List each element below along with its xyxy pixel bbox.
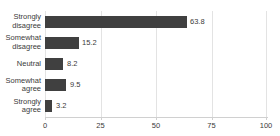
category-label-somewhat-disagree: Somewhat disagree xyxy=(0,32,41,53)
chart-row: Strongly agree 3.2 xyxy=(0,96,280,117)
x-axis-label-25: 25 xyxy=(96,121,104,130)
bar-somewhat-agree[interactable] xyxy=(45,79,66,91)
category-label-strongly-disagree: Strongly disagree xyxy=(0,11,41,32)
x-axis-tick-100 xyxy=(266,117,267,120)
category-label-somewhat-agree: Somewhat agree xyxy=(0,75,41,96)
bar-value-strongly-disagree: 63.8 xyxy=(190,17,205,27)
bar-chart: Strongly disagree 63.8 Somewhat disagree… xyxy=(0,0,280,136)
x-axis-tick-75 xyxy=(212,117,213,120)
bar-strongly-disagree[interactable] xyxy=(45,16,187,28)
x-axis-tick-0 xyxy=(45,117,46,120)
chart-row: Somewhat disagree 15.2 xyxy=(0,32,280,53)
chart-row: Neutral 8.2 xyxy=(0,53,280,74)
bar-somewhat-disagree[interactable] xyxy=(45,37,79,49)
category-label-line2: agree xyxy=(22,106,41,115)
x-axis-tick-25 xyxy=(101,117,102,120)
category-label-line2: disagree xyxy=(12,43,41,52)
bar-value-neutral: 8.2 xyxy=(67,59,77,69)
bar-value-somewhat-agree: 9.5 xyxy=(70,80,80,90)
bar-strongly-agree[interactable] xyxy=(45,100,52,112)
x-axis-tick-50 xyxy=(156,117,157,120)
category-label-neutral: Neutral xyxy=(0,53,41,74)
bar-value-somewhat-disagree: 15.2 xyxy=(82,38,97,48)
category-label-strongly-agree: Strongly agree xyxy=(0,96,41,117)
category-label-line2: disagree xyxy=(12,22,41,31)
x-axis-label-100: 100 xyxy=(260,121,273,130)
x-axis-label-0: 0 xyxy=(43,121,47,130)
bar-neutral[interactable] xyxy=(45,58,63,70)
x-axis-label-75: 75 xyxy=(207,121,215,130)
bar-value-strongly-agree: 3.2 xyxy=(56,101,66,111)
category-label-line2: agree xyxy=(22,85,41,94)
category-label-line1: Neutral xyxy=(17,60,41,69)
x-axis-label-50: 50 xyxy=(152,121,160,130)
chart-row: Somewhat agree 9.5 xyxy=(0,75,280,96)
chart-row: Strongly disagree 63.8 xyxy=(0,11,280,32)
